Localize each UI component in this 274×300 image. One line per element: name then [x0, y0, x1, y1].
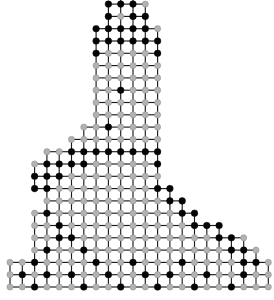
- mesh-node-marked: [117, 284, 124, 291]
- mesh-node-marked: [93, 25, 100, 32]
- mesh-node: [130, 210, 136, 216]
- mesh-node: [142, 210, 148, 216]
- mesh-node: [44, 198, 50, 204]
- mesh-node-marked: [204, 222, 211, 229]
- mesh-node: [93, 87, 99, 93]
- mesh-node: [155, 198, 161, 204]
- mesh-node: [56, 259, 62, 265]
- mesh-node: [19, 259, 25, 265]
- mesh-node-marked: [179, 210, 186, 217]
- mesh-node-marked: [191, 284, 198, 291]
- mesh-node: [81, 259, 87, 265]
- mesh-node: [167, 235, 173, 241]
- mesh-node: [105, 247, 111, 253]
- mesh-node: [130, 173, 136, 179]
- mesh-node: [105, 136, 111, 142]
- mesh-node: [265, 272, 271, 278]
- mesh-node: [155, 87, 161, 93]
- mesh-node: [56, 186, 62, 192]
- mesh-node: [155, 124, 161, 130]
- mesh-node: [93, 222, 99, 228]
- mesh-node-marked: [130, 1, 137, 8]
- mesh-node: [179, 247, 185, 253]
- mesh-node: [253, 247, 259, 253]
- mesh-node-marked: [142, 38, 149, 45]
- mesh-node: [130, 136, 136, 142]
- mesh-node: [130, 112, 136, 118]
- mesh-node: [216, 284, 222, 290]
- mesh-node: [142, 87, 148, 93]
- mesh-node: [81, 186, 87, 192]
- mesh-node: [191, 235, 197, 241]
- mesh-node: [130, 63, 136, 69]
- mesh-node: [56, 210, 62, 216]
- mesh-node: [68, 186, 74, 192]
- mesh-node: [7, 272, 13, 278]
- mesh-node: [241, 235, 247, 241]
- mesh-node: [155, 99, 161, 105]
- mesh-node: [204, 259, 210, 265]
- mesh-node: [105, 112, 111, 118]
- mesh-node: [105, 186, 111, 192]
- mesh-node: [155, 75, 161, 81]
- mesh-node: [167, 284, 173, 290]
- mesh-node-marked: [44, 173, 51, 180]
- mesh-node: [130, 272, 136, 278]
- mesh-node: [7, 259, 13, 265]
- mesh-node-marked: [105, 148, 112, 155]
- mesh-node-marked: [44, 161, 51, 168]
- mesh-node-marked: [93, 50, 100, 57]
- mesh-node: [204, 284, 210, 290]
- mesh-node: [228, 272, 234, 278]
- mesh-node: [68, 173, 74, 179]
- mesh-node-marked: [179, 259, 186, 266]
- mesh-node: [142, 161, 148, 167]
- mesh-node: [93, 235, 99, 241]
- mesh-node: [130, 235, 136, 241]
- mesh-node: [130, 124, 136, 130]
- mesh-node: [155, 247, 161, 253]
- mesh-node-marked: [56, 173, 63, 180]
- mesh-node-marked: [44, 185, 51, 192]
- mesh-node-marked: [228, 247, 235, 254]
- mesh-node-marked: [216, 235, 223, 242]
- mesh-node: [105, 50, 111, 56]
- mesh-node: [68, 222, 74, 228]
- mesh-node-marked: [154, 148, 161, 155]
- mesh-node-marked: [117, 1, 124, 8]
- mesh-node: [118, 210, 124, 216]
- mesh-node-marked: [142, 271, 149, 278]
- mesh-node: [56, 198, 62, 204]
- mesh-node: [130, 99, 136, 105]
- mesh-node: [204, 247, 210, 253]
- mesh-node: [191, 259, 197, 265]
- mesh-node: [155, 259, 161, 265]
- mesh-node: [118, 75, 124, 81]
- mesh-node: [167, 222, 173, 228]
- mesh-node: [81, 210, 87, 216]
- mesh-node: [142, 284, 148, 290]
- mesh-node-marked: [31, 284, 38, 291]
- mesh-node-marked: [191, 222, 198, 229]
- mesh-node: [265, 259, 271, 265]
- mesh-node: [118, 272, 124, 278]
- mesh-node-marked: [56, 161, 63, 168]
- mesh-node: [7, 284, 13, 290]
- mesh-node-marked: [228, 284, 235, 291]
- mesh-node: [265, 284, 271, 290]
- mesh-node-marked: [105, 124, 112, 131]
- mesh-node: [142, 99, 148, 105]
- mesh-node: [56, 272, 62, 278]
- mesh-node: [118, 13, 124, 19]
- mesh-node: [93, 161, 99, 167]
- mesh-node-marked: [142, 13, 149, 20]
- mesh-node-marked: [167, 271, 174, 278]
- mesh-node: [68, 198, 74, 204]
- mesh-node-marked: [117, 87, 124, 94]
- mesh-node: [31, 235, 37, 241]
- mesh-node: [142, 198, 148, 204]
- mesh-node-marked: [130, 25, 137, 32]
- mesh-node: [105, 161, 111, 167]
- mesh-node: [155, 173, 161, 179]
- mesh-node: [118, 259, 124, 265]
